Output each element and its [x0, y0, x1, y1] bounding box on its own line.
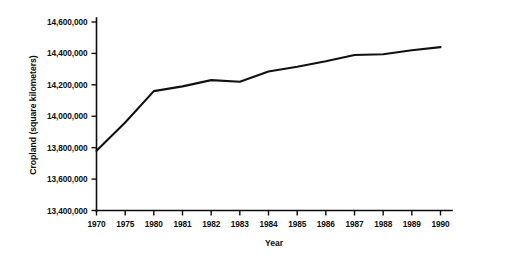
x-tick-label: 1982	[202, 219, 221, 229]
y-tick-label: 14,200,000	[47, 80, 88, 90]
y-tick-label: 13,800,000	[47, 143, 88, 153]
x-tick-label: 1989	[403, 219, 422, 229]
x-axis-title: Year	[265, 238, 284, 248]
cropland-series-line	[97, 47, 441, 151]
x-tick-label: 1980	[145, 219, 164, 229]
x-tick-label: 1970	[87, 219, 106, 229]
chart-figure: 13,400,00013,600,00013,800,00014,000,000…	[0, 0, 511, 257]
x-tick-label: 1988	[374, 219, 393, 229]
y-tick-label: 13,600,000	[47, 174, 88, 184]
y-tick-label: 14,000,000	[47, 111, 88, 121]
cropland-line-chart: 13,400,00013,600,00013,800,00014,000,000…	[0, 0, 511, 257]
y-tick-label: 13,400,000	[47, 206, 88, 216]
x-axis-group: 1970197519801981198219831984198519861987…	[87, 211, 452, 229]
x-tick-label: 1975	[116, 219, 135, 229]
x-tick-labels: 1970197519801981198219831984198519861987…	[87, 219, 450, 229]
x-tick-label: 1990	[431, 219, 450, 229]
plot-area	[97, 47, 441, 151]
x-tick-label: 1981	[173, 219, 192, 229]
y-tick-label: 14,600,000	[47, 17, 88, 27]
x-tick-label: 1987	[345, 219, 364, 229]
x-tick-label: 1986	[317, 219, 336, 229]
x-tick-label: 1985	[288, 219, 307, 229]
y-axis-title: Cropland (square kilometers)	[28, 55, 38, 175]
y-tick-label: 14,400,000	[47, 48, 88, 58]
y-axis-group: 13,400,00013,600,00013,800,00014,000,000…	[47, 17, 97, 216]
x-tick-label: 1984	[259, 219, 278, 229]
x-tick-label: 1983	[231, 219, 250, 229]
y-tick-labels: 13,400,00013,600,00013,800,00014,000,000…	[47, 17, 88, 216]
